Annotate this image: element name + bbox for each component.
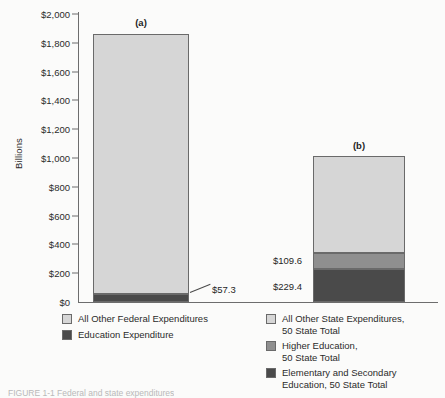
x-axis-line [78, 302, 438, 303]
y-axis-tick-labels: $2,000 $1,800 $1,600 $1,400 $1,200 $1,00… [8, 0, 70, 310]
y-tick-label: $200 [8, 268, 70, 279]
y-tick-label: $1,800 [8, 37, 70, 48]
figure-caption: FIGURE 1-1 Federal and state expenditure… [8, 388, 174, 398]
bar-b-letter: (b) [353, 140, 365, 151]
legend-left: All Other Federal Expenditures Education… [62, 313, 247, 344]
bar-a-letter: (a) [135, 17, 147, 28]
legend-swatch-light-gray-icon [266, 314, 276, 324]
plot-area: Billions $2,000 $1,800 $1,600 $1,400 $1,… [0, 0, 445, 310]
legend-label: All Other State Expenditures, 50 State T… [282, 313, 405, 336]
bar-a[interactable] [93, 34, 189, 302]
y-tick-label: $400 [8, 239, 70, 250]
legend-swatch-dark-gray-icon [62, 330, 72, 340]
bar-b[interactable] [313, 156, 405, 302]
y-tick-label: $1,000 [8, 153, 70, 164]
callout-b-elementary-secondary: $229.4 [273, 281, 302, 292]
legend-label: Education Expenditure [78, 329, 174, 341]
y-tick-label: $2,000 [8, 9, 70, 20]
legend-label: Elementary and Secondary Education, 50 S… [282, 367, 397, 390]
legend-swatch-light-gray-icon [62, 314, 72, 324]
callout-leader-a-education [190, 284, 211, 293]
y-tick-label: $1,600 [8, 66, 70, 77]
legend-right: All Other State Expenditures, 50 State T… [266, 313, 445, 394]
legend-label: Higher Education, 50 State Total [282, 340, 358, 363]
bar-b-segment-elementary-secondary[interactable] [313, 269, 405, 302]
y-tick-label: $0 [8, 297, 70, 308]
legend-item-elementary-secondary[interactable]: Elementary and Secondary Education, 50 S… [266, 367, 445, 390]
y-tick-label: $1,200 [8, 124, 70, 135]
y-tick-label: $1,400 [8, 95, 70, 106]
y-tick-label: $800 [8, 181, 70, 192]
legend-swatch-mid-gray-icon [266, 341, 276, 351]
bar-b-segment-higher-education[interactable] [313, 253, 405, 269]
bar-a-segment-all-other-federal[interactable] [93, 34, 189, 294]
y-tick-label: $600 [8, 210, 70, 221]
y-axis-line [78, 12, 79, 303]
legend-item-higher-education[interactable]: Higher Education, 50 State Total [266, 340, 445, 363]
bar-b-segment-all-other-state[interactable] [313, 156, 405, 253]
legend-item-all-other-federal[interactable]: All Other Federal Expenditures [62, 313, 247, 325]
legend-label: All Other Federal Expenditures [78, 313, 208, 325]
legend-item-all-other-state[interactable]: All Other State Expenditures, 50 State T… [266, 313, 445, 336]
callout-a-education: $57.3 [212, 284, 236, 295]
legend-item-education-expenditure[interactable]: Education Expenditure [62, 329, 247, 341]
bar-a-segment-education[interactable] [93, 294, 189, 302]
legend-swatch-dark-gray-icon [266, 368, 276, 378]
callout-b-higher-education: $109.6 [273, 255, 302, 266]
